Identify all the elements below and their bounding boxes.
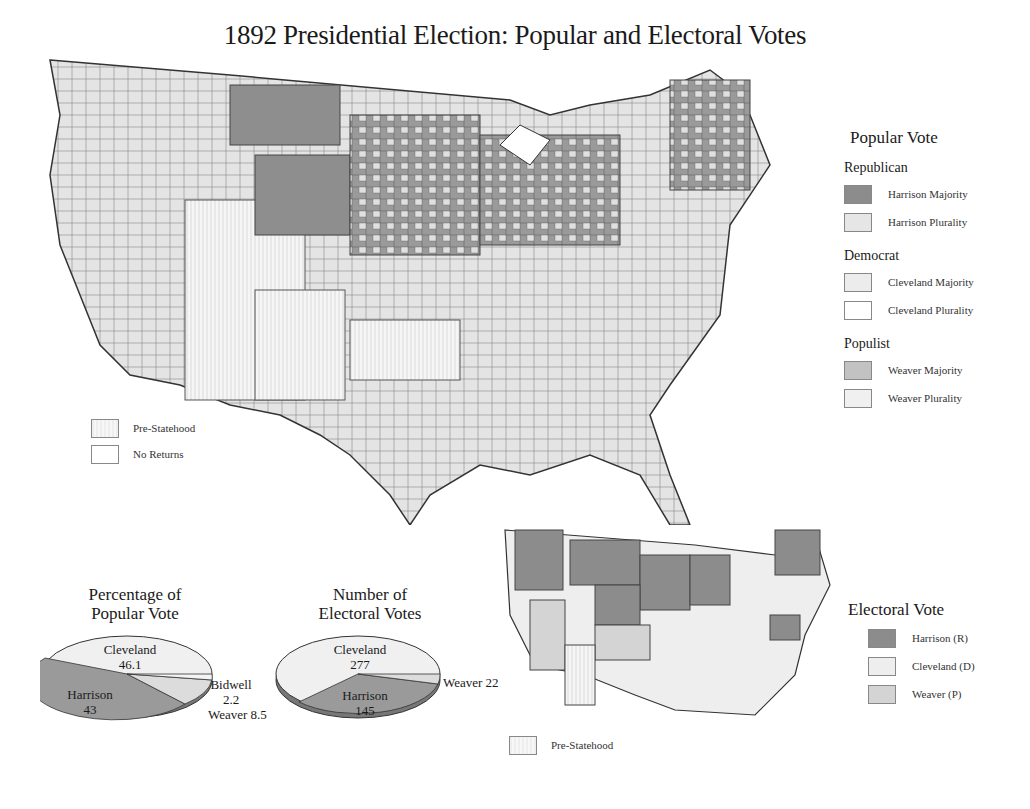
- bidwell-popular-label: Bidwell2.2: [208, 677, 254, 707]
- weaver-majority-swatch: [844, 361, 872, 380]
- pre-statehood-swatch: [91, 419, 119, 438]
- no-returns-swatch: [91, 445, 119, 464]
- popular-legend-title: Popular Vote: [850, 128, 974, 148]
- region-new-england: [670, 80, 750, 190]
- electoral-pie-title: Number ofElectoral Votes: [290, 585, 450, 623]
- legend-populist: Populist: [844, 336, 974, 352]
- popular-vote-legend: Popular Vote Republican Harrison Majorit…: [844, 128, 974, 412]
- weaver-majority-label: Weaver Majority: [888, 364, 963, 376]
- harrison-r-swatch: [868, 629, 896, 648]
- map-legend: Pre-Statehood No Returns: [91, 415, 195, 467]
- popular-pie-title: Percentage ofPopular Vote: [45, 585, 225, 623]
- electoral-vote-legend: Electoral Vote Harrison (R) Cleveland (D…: [868, 600, 975, 708]
- cleveland-d-label: Cleveland (D): [912, 660, 975, 672]
- weaver-popular-label: Weaver 8.5: [208, 707, 278, 722]
- electoral-legend-title: Electoral Vote: [848, 600, 975, 620]
- electoral-pre-statehood-swatch: [509, 736, 537, 755]
- legend-democrat: Democrat: [844, 248, 974, 264]
- cleveland-popular-label: Cleveland46.1: [95, 642, 165, 672]
- region-montana-east: [230, 85, 340, 145]
- cleveland-plurality-label: Cleveland Plurality: [888, 304, 973, 316]
- region-plains: [350, 115, 480, 255]
- electoral-pre-statehood-legend: Pre-Statehood: [509, 731, 613, 759]
- pre-statehood-label: Pre-Statehood: [133, 422, 195, 434]
- cleveland-electoral-label: Cleveland277: [325, 642, 395, 672]
- harrison-popular-label: Harrison43: [55, 687, 125, 717]
- harrison-majority-label: Harrison Majority: [888, 188, 968, 200]
- region-midwest: [480, 135, 620, 245]
- legend-republican: Republican: [844, 160, 974, 176]
- electoral-map: [495, 525, 835, 725]
- territory-new-mexico: [255, 290, 345, 400]
- harrison-plurality-label: Harrison Plurality: [888, 216, 967, 228]
- harrison-plurality-swatch: [844, 213, 872, 232]
- cleveland-plurality-swatch: [844, 301, 872, 320]
- cleveland-d-swatch: [868, 657, 896, 676]
- weaver-plurality-swatch: [844, 389, 872, 408]
- weaver-p-label: Weaver (P): [912, 688, 962, 700]
- cleveland-majority-label: Cleveland Majority: [888, 276, 974, 288]
- territory-oklahoma: [350, 320, 460, 380]
- region-wyoming: [255, 155, 350, 235]
- cleveland-majority-swatch: [844, 273, 872, 292]
- weaver-p-swatch: [868, 685, 896, 704]
- harrison-electoral-label: Harrison145: [330, 688, 400, 718]
- no-returns-label: No Returns: [133, 448, 183, 460]
- electoral-pre-statehood-label: Pre-Statehood: [551, 739, 613, 751]
- weaver-plurality-label: Weaver Plurality: [888, 392, 962, 404]
- page-title: 1892 Presidential Election: Popular and …: [0, 20, 1030, 51]
- harrison-majority-swatch: [844, 185, 872, 204]
- harrison-r-label: Harrison (R): [912, 632, 968, 644]
